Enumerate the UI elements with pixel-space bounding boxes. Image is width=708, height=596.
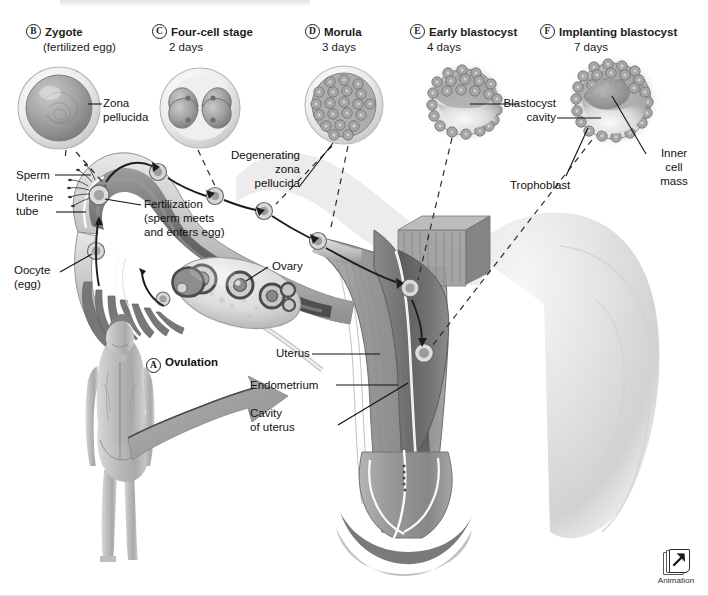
label-uterine-tube: Uterine tube: [16, 190, 53, 218]
label-ovulation: AOvulation: [146, 341, 218, 373]
stage-sub-morula: 3 days: [322, 41, 362, 53]
stage-name-four-cell: Four-cell stage: [171, 26, 253, 38]
animation-button[interactable]: Animation: [652, 549, 700, 585]
animation-button-caption: Animation: [658, 576, 694, 585]
label-sperm: Sperm: [16, 168, 50, 182]
ovulation-text: Ovulation: [165, 356, 218, 368]
stage-heading-zygote: B Zygote: [26, 24, 116, 39]
stage-sub-early-blastocyst: 4 days: [427, 41, 517, 53]
anatomical-illustration: [0, 0, 708, 596]
label-degenerating-zona-pellucida: Degenerating zona pellucida: [216, 148, 300, 190]
stage-caption-four-cell: C Four-cell stage 2 days: [152, 24, 253, 53]
label-inner-cell-mass: Inner cell mass: [648, 146, 700, 188]
morula-illustration: [305, 66, 383, 144]
label-cavity-of-uterus: Cavity of uterus: [250, 406, 295, 434]
label-oocyte-egg: Oocyte (egg): [14, 263, 50, 291]
label-blastocyst-cavity: Blastocyst cavity: [448, 96, 556, 124]
stage-heading-early-blastocyst: E Early blastocyst: [410, 24, 517, 39]
label-fertilization: Fertilization (sperm meets and enters eg…: [144, 197, 225, 239]
label-endometrium: Endometrium: [250, 378, 318, 392]
stage-letter-f: F: [540, 24, 555, 39]
stage-letter-d: D: [305, 24, 320, 39]
stage-sub-four-cell: 2 days: [169, 41, 253, 53]
label-trophoblast: Trophoblast: [510, 178, 570, 192]
label-ovary: Ovary: [272, 259, 303, 273]
stage-caption-zygote: B Zygote (fertilized egg): [26, 24, 116, 53]
stage-name-zygote: Zygote: [45, 26, 83, 38]
implanting-blastocyst-marker: [415, 344, 434, 363]
ovulated-oocyte-at-ovary: [156, 292, 170, 306]
stage-heading-four-cell: C Four-cell stage: [152, 24, 253, 39]
early-blastocyst-marker: [401, 279, 419, 297]
stage-heading-implanting-blastocyst: F Implanting blastocyst: [540, 24, 677, 39]
figure-canvas: B Zygote (fertilized egg) C Four-cell st…: [0, 0, 708, 596]
four-cell-illustration: [160, 68, 240, 148]
implanting-blastocyst-illustration: [571, 59, 655, 143]
launch-window-arrow-icon: [663, 549, 689, 575]
stage-sub-implanting-blastocyst: 7 days: [574, 41, 677, 53]
stage-letter-e: E: [410, 24, 425, 39]
stage-letter-c: C: [152, 24, 167, 39]
stage-caption-early-blastocyst: E Early blastocyst 4 days: [410, 24, 517, 53]
stage-letter-b: B: [26, 24, 41, 39]
stage-name-morula: Morula: [324, 26, 362, 38]
label-zona-pellucida: Zona pellucida: [103, 96, 148, 124]
zygote-illustration: [18, 67, 100, 149]
arrow-up-right-icon: [669, 549, 689, 571]
stage-sub-zygote: (fertilized egg): [43, 41, 116, 53]
stage-heading-morula: D Morula: [305, 24, 362, 39]
label-uterus: Uterus: [276, 346, 310, 360]
stage-caption-implanting-blastocyst: F Implanting blastocyst 7 days: [540, 24, 677, 53]
stage-name-early-blastocyst: Early blastocyst: [429, 26, 517, 38]
stage-caption-morula: D Morula 3 days: [305, 24, 362, 53]
stage-letter-a: A: [146, 358, 161, 373]
stage-name-implanting-blastocyst: Implanting blastocyst: [559, 26, 677, 38]
